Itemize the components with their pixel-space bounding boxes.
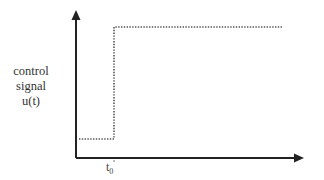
y-axis-label-line-3: u(t) (0, 94, 62, 109)
y-axis-label-line-2: signal (0, 79, 62, 94)
x-tick-label-t0: t0 (106, 160, 113, 176)
control-signal-step (79, 27, 282, 139)
x-axis-arrow-icon (294, 154, 304, 163)
x-tick-subscript: 0 (109, 167, 113, 176)
y-axis-arrow-icon (72, 10, 81, 20)
y-axis-label: control signal u(t) (0, 64, 62, 109)
y-axis-label-line-1: control (0, 64, 62, 79)
